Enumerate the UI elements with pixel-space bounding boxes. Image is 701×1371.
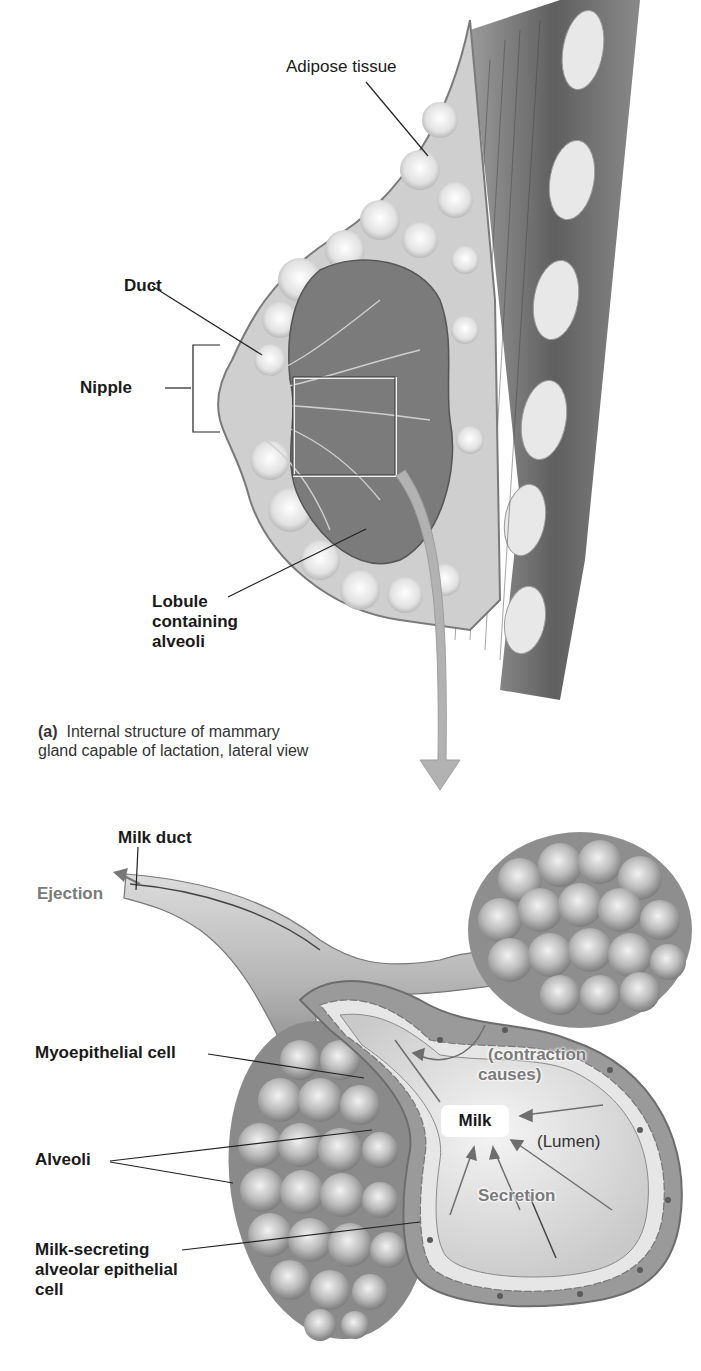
label-lobule-line1: Lobule [152, 592, 238, 612]
label-lobule: Lobule containing alveoli [152, 592, 238, 652]
label-lumen: (Lumen) [537, 1132, 600, 1152]
label-milk: Milk [441, 1105, 509, 1137]
label-secreting-line1: Milk-secreting [35, 1240, 178, 1260]
label-duct: Duct [124, 276, 162, 296]
label-ejection: Ejection [37, 884, 103, 904]
label-milk-duct: Milk duct [118, 828, 192, 848]
label-secreting-line2: alveolar epithelial [35, 1260, 178, 1280]
label-contraction: (contraction causes) [488, 1045, 586, 1085]
label-secreting-line3: cell [35, 1280, 178, 1300]
label-nipple: Nipple [80, 378, 132, 398]
label-lobule-line3: alveoli [152, 632, 238, 652]
label-adipose-tissue: Adipose tissue [286, 57, 397, 77]
caption-tag: (a) [38, 723, 58, 740]
label-secretion: Secretion [478, 1186, 555, 1206]
mammary-gland-illustration [0, 0, 701, 1371]
caption-line1: Internal structure of mammary [66, 723, 279, 740]
panel-a-caption: (a) Internal structure of mammary gland … [38, 722, 308, 760]
label-milk-secreting-cell: Milk-secreting alveolar epithelial cell [35, 1240, 178, 1300]
label-myoepithelial-cell: Myoepithelial cell [35, 1043, 176, 1063]
upper-alveolar-cluster [468, 832, 692, 1028]
label-lobule-line2: containing [152, 612, 238, 632]
caption-line2: gland capable of lactation, lateral view [38, 741, 308, 760]
label-contraction-line2: causes) [478, 1065, 586, 1085]
label-alveoli: Alveoli [35, 1150, 91, 1170]
label-contraction-line1: (contraction [488, 1045, 586, 1065]
